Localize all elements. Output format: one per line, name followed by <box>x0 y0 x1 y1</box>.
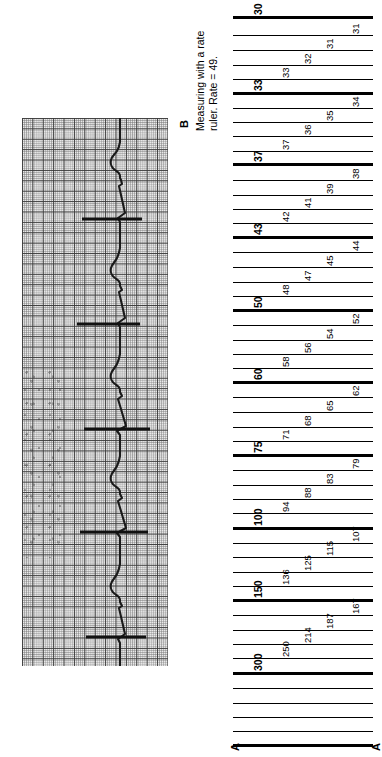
ruler-rate-label: 136 <box>281 569 291 585</box>
ruler-rate-label: 50 <box>253 296 264 308</box>
caption-line-1: Measuring with a rate <box>194 31 206 131</box>
ruler-rate-label: 300 <box>253 653 264 671</box>
ruler-rate-label: 31 <box>325 38 335 49</box>
ruler-rate-label: 150 <box>253 580 264 598</box>
ruler-rate-label: 71 <box>281 429 291 440</box>
ruler-rate-label: 214 <box>303 627 313 643</box>
ruler-rate-label: 250 <box>281 641 291 657</box>
ruler-rate-label: 94 <box>281 501 291 512</box>
ruler-rate-label: 33 <box>281 67 291 78</box>
ruler-rate-label: 42 <box>281 211 291 222</box>
ruler-rate-label: 38 <box>351 168 361 179</box>
ruler-rate-label: 83 <box>325 473 335 484</box>
ruler-rate-label: 45 <box>325 255 335 266</box>
ruler-rate-label: 34 <box>351 96 361 107</box>
ruler-rate-label: 79 <box>351 458 361 469</box>
ruler-rate-label: 41 <box>303 197 313 208</box>
ruler-rate-label: 56 <box>303 342 313 353</box>
ruler-end-label-bottom: A <box>370 743 382 751</box>
ruler-rate-label: 37 <box>281 139 291 150</box>
ruler-rate-label: 75 <box>253 441 264 453</box>
ruler-rate-label: 39 <box>325 183 335 194</box>
ruler-rate-label: 32 <box>303 53 313 64</box>
ruler-rate-label: 60 <box>253 368 264 380</box>
rate-ruler: A A 303131323333343536373738394142434445… <box>229 0 377 757</box>
ruler-end-label-top: A <box>229 743 241 751</box>
ruler-rate-label: 31 <box>351 23 361 34</box>
panel-letter-b: B <box>178 120 190 128</box>
ruler-rate-label: 88 <box>303 487 313 498</box>
ruler-rate-label: 54 <box>325 328 335 339</box>
ecg-trace-svg <box>22 118 168 666</box>
ruler-rate-label: 100 <box>253 508 264 526</box>
ruler-rate-label: 65 <box>325 400 335 411</box>
ruler-rate-label: 187 <box>325 613 335 629</box>
ruler-rate-label: 167 <box>351 598 361 614</box>
ruler-rate-label: 115 <box>325 540 335 555</box>
ruler-rate-label: 58 <box>281 356 291 367</box>
ruler-rate-label: 107 <box>351 526 361 542</box>
ruler-rate-label: 52 <box>351 313 361 324</box>
caption-line-2: ruler. Rate = 49. <box>207 56 219 131</box>
ruler-rate-label: 47 <box>303 270 313 281</box>
ruler-rate-label: 35 <box>325 110 335 121</box>
ruler-rate-label: 62 <box>351 385 361 396</box>
ruler-rate-label: 33 <box>253 79 264 91</box>
ruler-rate-label: 37 <box>253 150 264 162</box>
ruler-rate-label: 36 <box>303 124 313 135</box>
ecg-strip-panel: FIRST “R” WAVE <box>22 118 168 666</box>
ruler-rate-label: 43 <box>253 223 264 235</box>
ruler-rate-label: 48 <box>281 284 291 295</box>
ruler-rate-label: 44 <box>351 240 361 251</box>
ruler-rate-label: 125 <box>303 555 313 571</box>
ruler-rate-label: 30 <box>253 3 264 15</box>
ruler-rate-label: 68 <box>303 415 313 426</box>
caliper-mark <box>77 219 150 637</box>
